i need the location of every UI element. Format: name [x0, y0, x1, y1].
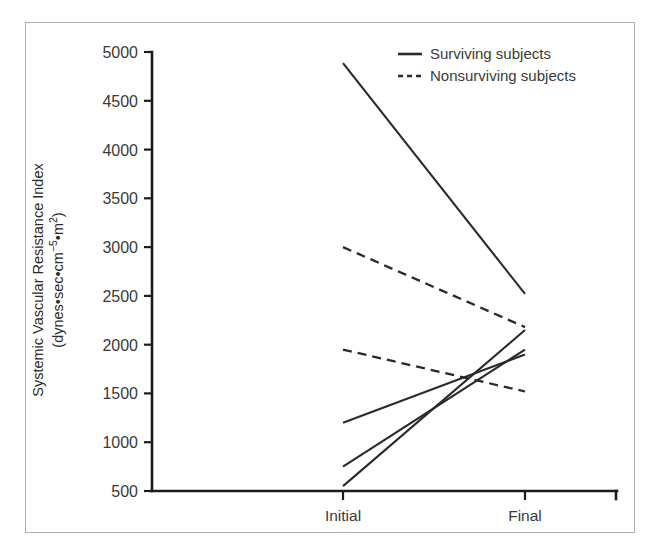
x-tick-label-initial: Initial — [325, 507, 361, 524]
legend-label-nonsurviving: Nonsurviving subjects — [430, 67, 576, 84]
figure-container: Systemic Vascular Resistance Index (dyne… — [0, 0, 660, 560]
y-tick-label-2000: 2000 — [102, 337, 138, 354]
x-axis-tick-labels: Initial Final — [325, 507, 542, 524]
chart-plot-area: 5000 4500 4000 3500 3000 2500 2000 1500 … — [0, 0, 660, 560]
series-line-surviving-1 — [343, 63, 525, 294]
y-axis-tick-labels: 5000 4500 4000 3500 3000 2500 2000 1500 … — [102, 44, 138, 500]
y-tick-label-1000: 1000 — [102, 434, 138, 451]
y-tick-label-2500: 2500 — [102, 288, 138, 305]
y-tick-label-1500: 1500 — [102, 385, 138, 402]
series-line-surviving-4 — [343, 330, 525, 486]
x-tick-label-final: Final — [508, 507, 542, 524]
series-line-surviving-2 — [343, 355, 525, 423]
legend-label-surviving: Surviving subjects — [430, 45, 551, 62]
legend: Surviving subjects Nonsurviving subjects — [398, 45, 576, 84]
y-tick-label-4500: 4500 — [102, 93, 138, 110]
data-series-group — [343, 63, 525, 486]
y-tick-label-3000: 3000 — [102, 239, 138, 256]
y-tick-label-500: 500 — [111, 483, 138, 500]
y-tick-label-3500: 3500 — [102, 190, 138, 207]
y-tick-label-4000: 4000 — [102, 142, 138, 159]
y-tick-label-5000: 5000 — [102, 44, 138, 61]
series-line-nonsurviving-2 — [343, 350, 525, 392]
x-axis-ticks — [343, 491, 525, 500]
